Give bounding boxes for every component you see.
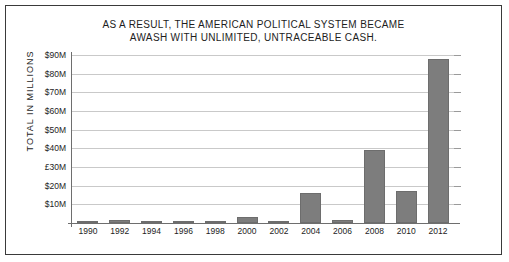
bar-2012 (428, 59, 449, 223)
chart-frame: AS A RESULT, THE AMERICAN POLITICAL SYST… (5, 5, 502, 255)
bar-series (72, 55, 454, 223)
y-axis-tick-mark (454, 186, 461, 187)
y-axis-tick-mark (454, 74, 461, 75)
y-axis-tick-mark (454, 111, 461, 112)
x-axis-tick-label: 2006 (333, 226, 352, 236)
y-axis-tick-label: $90M (22, 50, 66, 60)
bar-1992 (109, 220, 130, 223)
chart-title-line-2: AWASH WITH UNLIMITED, UNTRACEABLE CASH. (6, 31, 501, 44)
y-axis-tick-mark (454, 92, 461, 93)
y-axis-tick-label: $80M (22, 69, 66, 79)
bar-2008 (364, 150, 385, 223)
x-axis-tick-label: 2008 (365, 226, 384, 236)
x-axis-tick-label: 2002 (269, 226, 288, 236)
bar-1990 (77, 221, 98, 223)
y-axis-tick-mark (454, 204, 461, 205)
bar-2010 (396, 191, 417, 223)
x-axis-tick-label: 2004 (301, 226, 320, 236)
y-axis-tick-label: $50M (22, 125, 66, 135)
x-axis-tick-labels: 1990199219941996199820002002200420062008… (72, 226, 454, 240)
bar-1996 (173, 221, 194, 223)
bar-1998 (205, 221, 226, 223)
x-axis-tick-label: 1990 (78, 226, 97, 236)
bar-1994 (141, 221, 162, 223)
x-axis-tick-label: 1992 (110, 226, 129, 236)
y-axis-tick-labels: $10M$20M£30M$40M$50M$60M$70M$80M$90M (20, 55, 66, 223)
bar-2006 (332, 220, 353, 223)
y-axis-tick-label: £30M (22, 162, 66, 172)
y-axis-tick-label: $70M (22, 87, 66, 97)
chart-title: AS A RESULT, THE AMERICAN POLITICAL SYST… (6, 18, 501, 44)
x-axis-tick-label: 2012 (429, 226, 448, 236)
x-axis-tick-label: 1994 (142, 226, 161, 236)
bar-2002 (268, 221, 289, 223)
y-axis-tick-label: $10M (22, 199, 66, 209)
y-axis-tick-mark (454, 130, 461, 131)
x-axis-tick-label: 1998 (206, 226, 225, 236)
x-axis-tick-label: 1996 (174, 226, 193, 236)
y-axis-tick-mark (454, 167, 461, 168)
x-axis-line (68, 223, 460, 224)
y-axis-tick-label: $60M (22, 106, 66, 116)
chart-title-line-1: AS A RESULT, THE AMERICAN POLITICAL SYST… (6, 18, 501, 31)
y-axis-tick-mark (454, 148, 461, 149)
x-axis-tick-label: 2010 (397, 226, 416, 236)
y-axis-tick-label: $40M (22, 143, 66, 153)
x-axis-tick-label: 2000 (238, 226, 257, 236)
bar-2004 (300, 193, 321, 223)
bar-2000 (237, 217, 258, 223)
y-axis-tick-label: $20M (22, 181, 66, 191)
y-axis-tick-mark (454, 55, 461, 56)
